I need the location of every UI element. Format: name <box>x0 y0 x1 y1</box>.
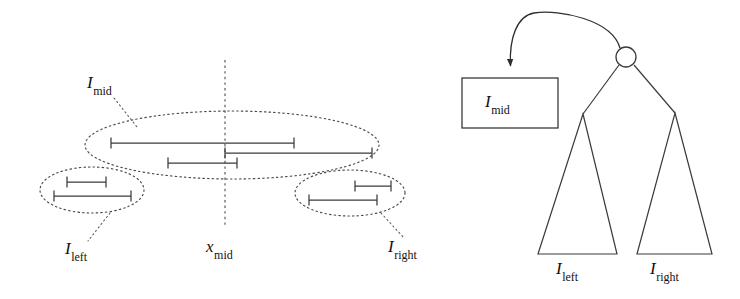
label-subtree-i-right: Iright <box>650 260 678 280</box>
interval-segment <box>168 158 237 169</box>
label-subtree-i-right-base: I <box>650 259 656 278</box>
arrow-node-to-imid <box>510 12 620 66</box>
label-subtree-i-left-sub: left <box>562 270 578 284</box>
label-i-mid-base: I <box>87 73 93 92</box>
label-i-mid-left-panel: Imid <box>87 74 111 94</box>
leader-line-i-right <box>381 213 404 238</box>
interval-set-i-left <box>54 177 131 202</box>
label-i-left-base: I <box>65 239 71 258</box>
label-subtree-i-left: Ileft <box>556 260 578 280</box>
label-box-i-mid-base: I <box>485 92 491 111</box>
tree-edge-right <box>634 65 675 113</box>
label-box-i-mid-sub: mid <box>491 103 510 117</box>
figure-root: Imid Ileft xmid Iright Imid Ileft Iright <box>0 0 740 299</box>
ellipse-i-right <box>295 170 405 216</box>
interval-set-i-mid <box>111 138 372 169</box>
subtree-triangle-i-left <box>538 114 617 254</box>
tree-edge-left <box>583 65 619 114</box>
leader-line-i-mid <box>114 98 137 127</box>
interval-segment <box>67 177 106 188</box>
tree-root-node <box>616 47 636 67</box>
label-i-right-sub: right <box>394 248 417 262</box>
right-panel-group <box>462 12 712 254</box>
label-i-right-base: I <box>388 237 394 256</box>
subtree-triangle-i-right <box>637 113 712 254</box>
diagram-canvas <box>0 0 740 299</box>
box-i-mid <box>462 78 558 128</box>
label-x-mid: xmid <box>206 238 232 258</box>
label-box-i-mid: Imid <box>485 93 509 113</box>
label-x-mid-base: x <box>206 237 214 256</box>
label-i-right: Iright <box>388 238 416 258</box>
interval-segment <box>111 138 294 149</box>
label-i-left: Ileft <box>65 240 87 260</box>
interval-set-i-right <box>309 181 391 206</box>
interval-segment <box>355 181 391 192</box>
label-subtree-i-right-sub: right <box>656 270 679 284</box>
label-i-left-sub: left <box>71 250 87 264</box>
label-x-mid-sub: mid <box>214 248 233 262</box>
label-i-mid-sub: mid <box>93 84 112 98</box>
interval-segment <box>225 148 372 159</box>
label-subtree-i-left-base: I <box>556 259 562 278</box>
leader-line-i-left <box>88 213 110 241</box>
ellipse-i-mid <box>85 111 379 179</box>
interval-segment <box>309 195 377 206</box>
interval-segment <box>54 191 131 202</box>
ellipse-i-left <box>40 167 144 213</box>
